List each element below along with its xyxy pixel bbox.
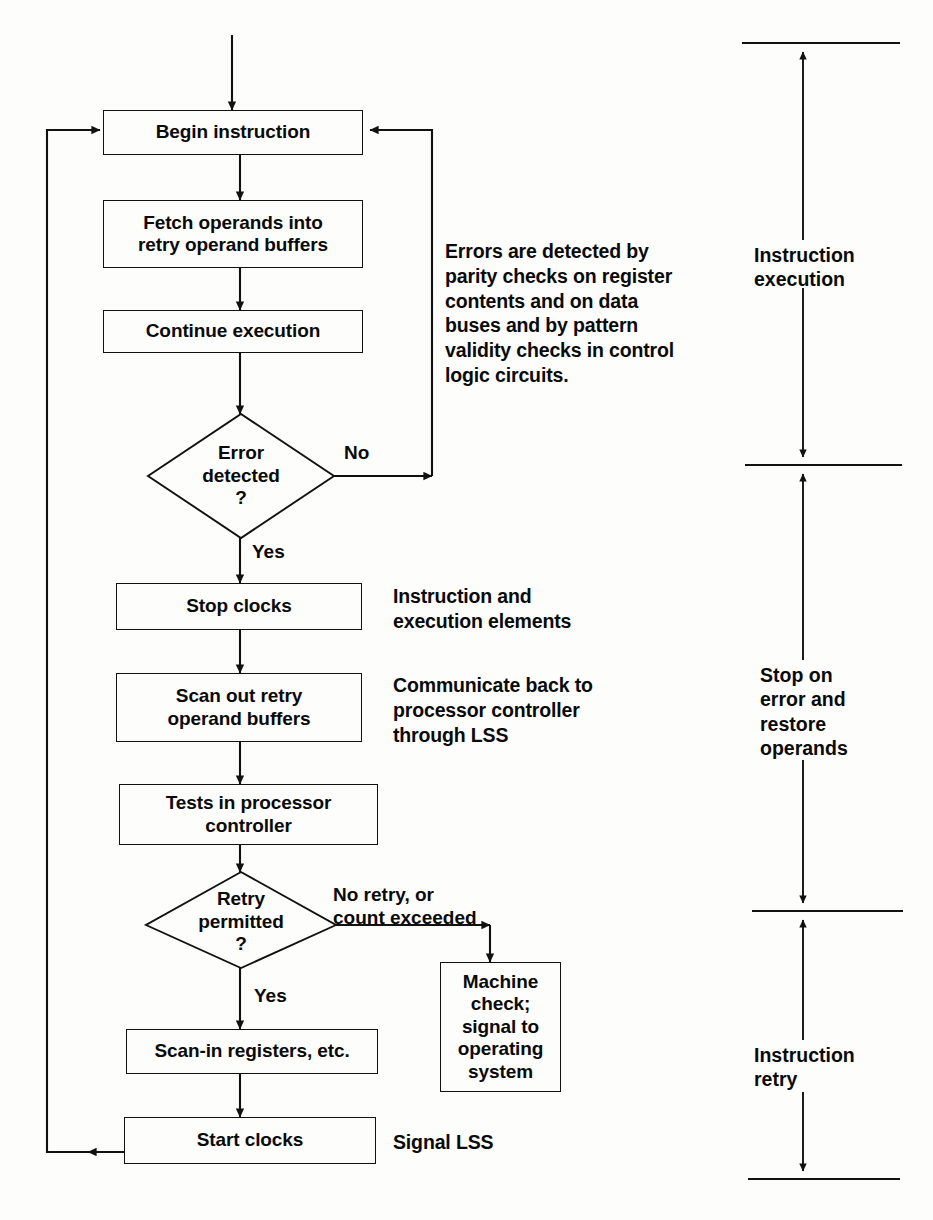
node-label: Begin instruction bbox=[156, 121, 311, 143]
flowchart-canvas: Begin instruction Fetch operands into re… bbox=[0, 0, 933, 1220]
edge-label-error-no: No bbox=[344, 442, 369, 465]
node-stop-clocks[interactable]: Stop clocks bbox=[116, 583, 362, 630]
edge-label-error-yes: Yes bbox=[252, 541, 285, 564]
node-retry-permitted-label[interactable]: Retry permitted ? bbox=[161, 882, 321, 962]
node-label: Machine check; signal to operating syste… bbox=[458, 971, 544, 1083]
note-signal-lss: Signal LSS bbox=[393, 1130, 593, 1155]
node-begin-instruction[interactable]: Begin instruction bbox=[103, 110, 363, 155]
node-machine-check[interactable]: Machine check; signal to operating syste… bbox=[440, 962, 561, 1092]
connector-error-no-return bbox=[370, 130, 432, 476]
node-scan-in-registers[interactable]: Scan-in registers, etc. bbox=[126, 1029, 378, 1074]
note-instruction-and-execution: Instruction and execution elements bbox=[393, 584, 643, 634]
phase-bracket-column bbox=[742, 43, 903, 1179]
node-continue-execution[interactable]: Continue execution bbox=[103, 310, 363, 353]
note-communicate-back: Communicate back to processor controller… bbox=[393, 673, 653, 747]
node-label: Fetch operands into retry operand buffer… bbox=[138, 212, 328, 257]
node-label: Scan out retry operand buffers bbox=[167, 685, 310, 730]
phase-label-instruction-execution: Instruction execution bbox=[754, 243, 904, 292]
edge-label-retry-yes: Yes bbox=[254, 985, 287, 1008]
node-label: Retry permitted ? bbox=[198, 888, 284, 955]
edge-label-retry-no: No retry, or count exceeded bbox=[333, 884, 477, 930]
node-start-clocks[interactable]: Start clocks bbox=[124, 1117, 376, 1164]
node-label: Continue execution bbox=[146, 320, 321, 342]
note-errors-detected: Errors are detected by parity checks on … bbox=[445, 239, 705, 388]
phase-label-instruction-retry: Instruction retry bbox=[754, 1043, 904, 1092]
node-label: Start clocks bbox=[197, 1129, 304, 1151]
connector-restart-loop bbox=[47, 130, 124, 1152]
node-scan-out-retry-buffers[interactable]: Scan out retry operand buffers bbox=[116, 673, 362, 742]
node-tests-in-processor-controller[interactable]: Tests in processor controller bbox=[119, 784, 378, 845]
node-error-detected-label[interactable]: Error detected ? bbox=[161, 428, 321, 524]
node-label: Stop clocks bbox=[186, 595, 292, 617]
node-label: Scan-in registers, etc. bbox=[154, 1040, 349, 1062]
node-label: Tests in processor controller bbox=[166, 792, 332, 837]
node-fetch-operands[interactable]: Fetch operands into retry operand buffer… bbox=[103, 200, 363, 268]
phase-label-stop-on-error: Stop on error and restore operands bbox=[760, 663, 910, 761]
node-label: Error detected ? bbox=[202, 442, 279, 509]
